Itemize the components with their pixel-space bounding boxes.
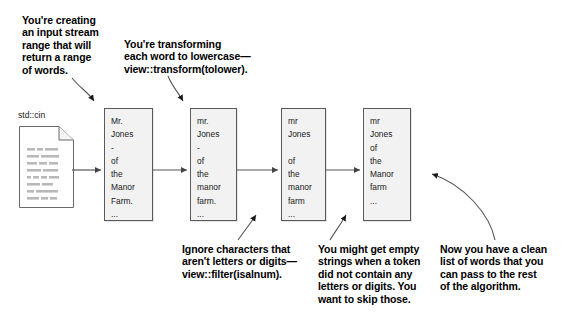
leader-clean-list bbox=[432, 174, 495, 240]
annotation-clean-list: Now you have a clean list of words that … bbox=[440, 243, 558, 293]
annotation-input-stream: You're creating an input stream range th… bbox=[22, 14, 132, 76]
annotation-transform: You're transforming each word to lowerca… bbox=[124, 38, 264, 75]
diagram-canvas: You're creating an input stream range th… bbox=[0, 0, 562, 323]
leader-empty-strings bbox=[330, 215, 346, 240]
box-filtered: mr Jones of the manor farm ... bbox=[281, 108, 326, 221]
source-label-stdcin: std::cin bbox=[18, 110, 45, 120]
box-nonempty: mr Jones of the Manor farm ... bbox=[363, 108, 411, 221]
annotation-filter: Ignore characters that aren't letters or… bbox=[182, 243, 322, 280]
document-icon bbox=[19, 126, 74, 208]
leader-input-stream bbox=[72, 78, 94, 101]
annotation-empty-strings: You might get empty strings when a token… bbox=[318, 243, 436, 305]
leader-transform bbox=[168, 76, 183, 101]
leader-filter bbox=[238, 215, 256, 240]
box-lowercased: mr. Jones - of the manor farm. ... bbox=[190, 108, 237, 221]
box-raw-words: Mr. Jones - of the Manor Farm. ... bbox=[104, 108, 153, 221]
